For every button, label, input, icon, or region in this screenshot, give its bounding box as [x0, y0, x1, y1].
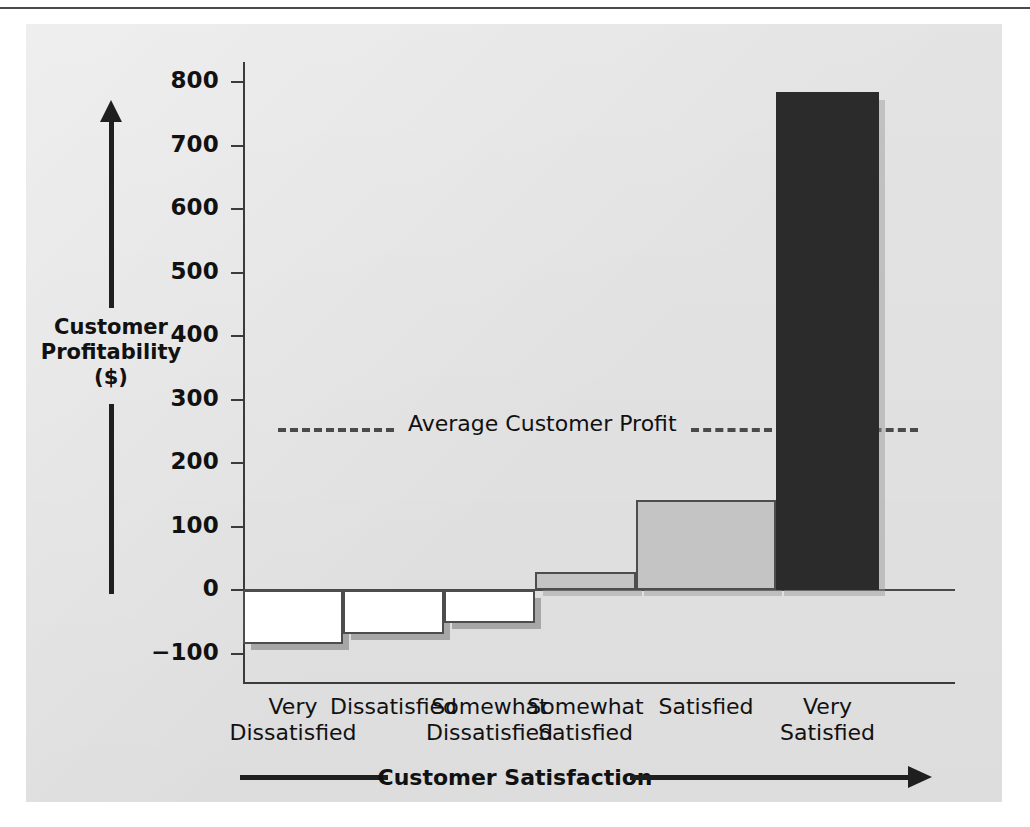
chart-figure-panel: [26, 24, 1002, 802]
page-top-rule: [0, 7, 1030, 9]
